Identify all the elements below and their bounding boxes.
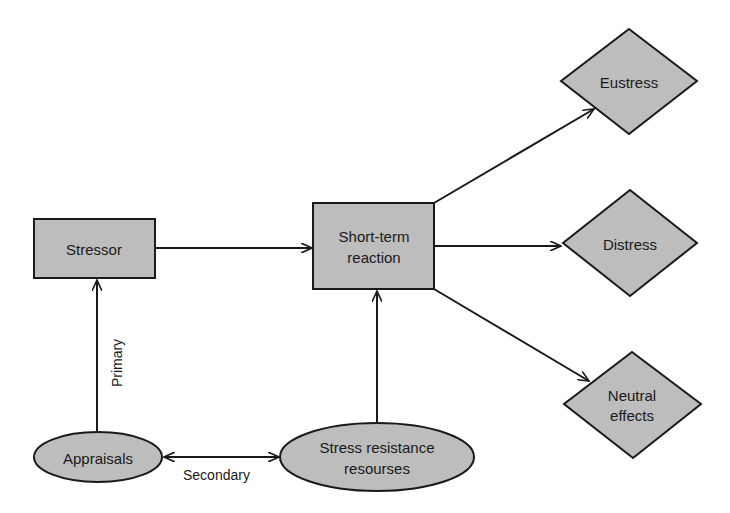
edge-short-term-to-eustress (434, 109, 594, 203)
secondary-edge-label: Secondary (183, 467, 250, 484)
distress-label: Distress (603, 235, 657, 254)
stress-resistance-label-line2: resourses (344, 459, 410, 478)
neutral-effects-label-line1: Neutral (608, 386, 656, 405)
eustress-label: Eustress (600, 73, 658, 92)
stressor-label: Stressor (66, 240, 122, 259)
primary-edge-label: Primary (109, 339, 126, 387)
node-stress-resistance-resources (280, 423, 474, 491)
short-term-label-line2: reaction (347, 248, 400, 267)
edge-short-term-to-neutral (434, 289, 589, 381)
node-short-term-reaction (313, 203, 434, 289)
short-term-label-line1: Short-term (339, 227, 410, 246)
neutral-effects-label-line2: effects (610, 406, 654, 425)
appraisals-label: Appraisals (63, 449, 133, 468)
stress-resistance-label-line1: Stress resistance (319, 438, 434, 457)
